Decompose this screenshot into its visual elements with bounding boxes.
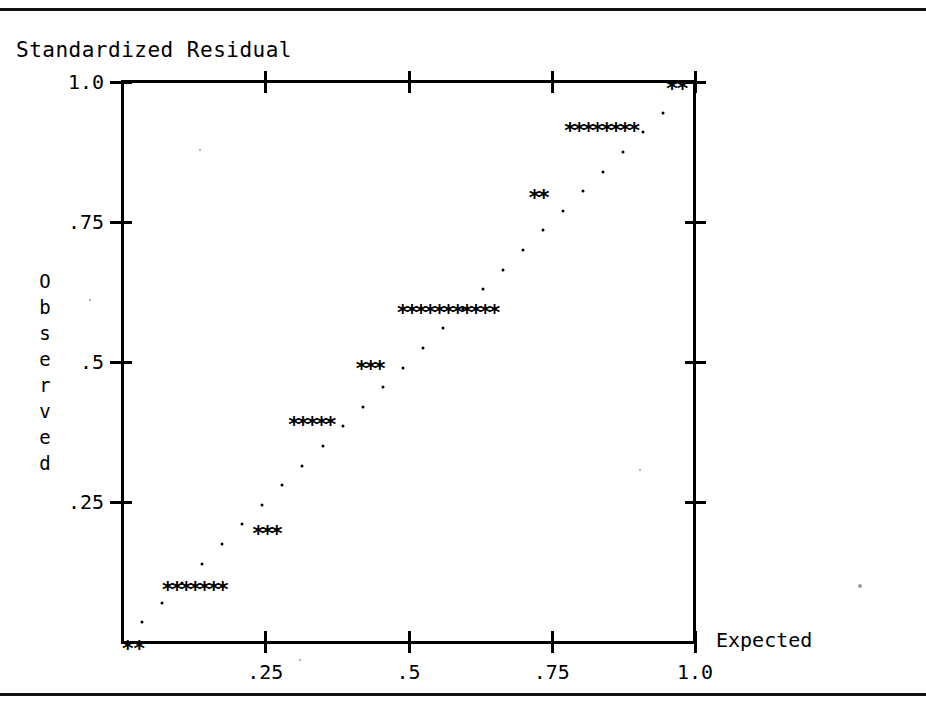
x-axis-line xyxy=(121,641,696,644)
reference-line-dot xyxy=(441,327,444,330)
reference-line-dot xyxy=(662,111,665,114)
reference-line-dot xyxy=(522,249,525,252)
y-axis-title-letter: v xyxy=(34,398,56,424)
y-axis-title-letter: d xyxy=(34,450,56,476)
reference-line-dot xyxy=(221,543,224,546)
y-axis-title-letter: e xyxy=(34,346,56,372)
reference-line-dot xyxy=(261,503,264,506)
reference-line-dot xyxy=(602,170,605,173)
scanned-page: Standardized Residual Observed Expected … xyxy=(0,0,926,725)
reference-line-dot xyxy=(381,386,384,389)
top-frame-line xyxy=(121,80,696,83)
y-axis-line xyxy=(121,80,124,644)
scan-speck xyxy=(639,469,641,471)
reference-line-dot xyxy=(421,347,424,350)
scan-speck xyxy=(858,584,862,588)
y-axis-title-letter: e xyxy=(34,424,56,450)
reference-line-dot xyxy=(181,582,184,585)
right-frame-line xyxy=(693,80,696,644)
reference-line-dot xyxy=(582,190,585,193)
scan-speck xyxy=(299,659,301,661)
axis-ticks-layer xyxy=(0,0,926,725)
pp-plot-chart: Standardized Residual Observed Expected … xyxy=(0,0,926,725)
chart-title: Standardized Residual xyxy=(16,38,292,62)
reference-line-dot xyxy=(141,621,144,624)
y-axis-title-letter: b xyxy=(34,294,56,320)
reference-line-dot xyxy=(321,445,324,448)
x-tick-label: 1.0 xyxy=(655,660,735,684)
reference-line-dot xyxy=(161,601,164,604)
reference-line-dot xyxy=(461,307,464,310)
x-tick-label: .75 xyxy=(512,660,592,684)
reference-line-dot xyxy=(502,268,505,271)
reference-line-dot xyxy=(622,151,625,154)
scan-speck xyxy=(199,149,201,151)
y-tick-label: .75 xyxy=(24,210,104,234)
y-axis-title-letter: O xyxy=(34,268,56,294)
reference-line-dot xyxy=(201,562,204,565)
axis-tick-labels-layer: .25.5.751.0.25.5.751.0 xyxy=(0,0,926,725)
reference-line-dot xyxy=(642,131,645,134)
reference-line-dot xyxy=(301,464,304,467)
reference-line-dot xyxy=(241,523,244,526)
y-axis-title-letter: s xyxy=(34,320,56,346)
y-axis-title-letter: r xyxy=(34,372,56,398)
reference-line-dot xyxy=(562,209,565,212)
x-tick-label: .25 xyxy=(225,660,305,684)
reference-line-dot xyxy=(542,229,545,232)
reference-line-dot xyxy=(361,405,364,408)
reference-line-dot xyxy=(401,366,404,369)
scan-speck xyxy=(89,299,91,301)
data-points-layer: ****************************************… xyxy=(0,0,926,725)
reference-line-dot xyxy=(281,484,284,487)
y-tick-label: .25 xyxy=(24,490,104,514)
reference-line-dot xyxy=(341,425,344,428)
x-axis-title: Expected xyxy=(716,628,812,652)
y-axis-title: Observed xyxy=(34,268,56,476)
x-tick-label: .5 xyxy=(369,660,449,684)
reference-line-dot xyxy=(481,288,484,291)
y-tick-label: 1.0 xyxy=(24,70,104,94)
